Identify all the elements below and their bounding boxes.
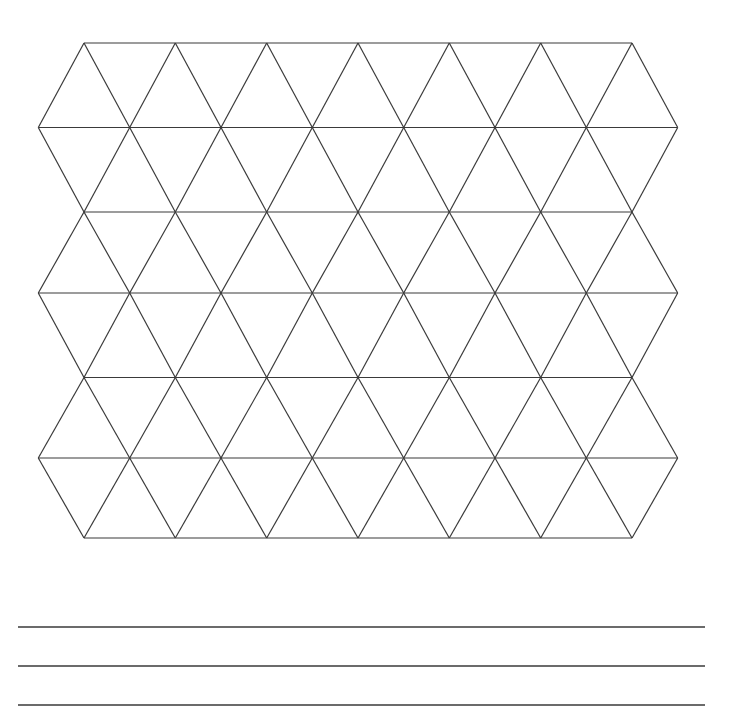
worksheet-page (0, 0, 734, 709)
ruled-lines-group (0, 0, 734, 709)
